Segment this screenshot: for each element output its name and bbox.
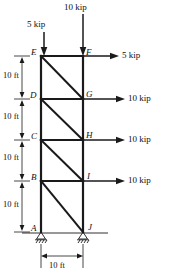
- truss-members: [41, 56, 83, 232]
- dim-label-BA: 10 ft: [3, 200, 19, 209]
- supports: [22, 232, 108, 243]
- horizontal-loads: [84, 53, 125, 185]
- node-label-E: E: [31, 48, 37, 57]
- node-label-B: B: [31, 173, 37, 182]
- member-D-H: [41, 99, 83, 140]
- node-label-H: H: [86, 131, 93, 140]
- load-label-E-5kip: 5 kip: [27, 20, 45, 29]
- member-B-J: [41, 181, 83, 232]
- dim-arrow-CB: [20, 141, 25, 180]
- dim-arrow-BA: [20, 182, 25, 231]
- node-label-G: G: [86, 90, 93, 99]
- load-label-F-10kip: 10 kip: [64, 3, 87, 12]
- load-arrow-I-h-10kip: [84, 178, 125, 185]
- node-label-A: A: [31, 224, 37, 233]
- support-J-pin-icon: [77, 232, 89, 243]
- load-label-G-h-10kip: 10 kip: [128, 94, 151, 103]
- load-arrow-E-5kip: [41, 32, 48, 56]
- node-label-D: D: [30, 91, 37, 100]
- node-label-C: C: [31, 132, 37, 141]
- dim-label-span: 10 ft: [49, 261, 65, 270]
- dim-label-DC: 10 ft: [3, 112, 19, 121]
- node-label-I: I: [87, 172, 90, 181]
- support-A-pin-icon: [35, 232, 47, 243]
- load-label-I-h-10kip: 10 kip: [128, 176, 151, 185]
- member-E-G: [41, 56, 83, 99]
- dim-label-ED: 10 ft: [3, 71, 19, 80]
- vertical-loads: [41, 14, 87, 56]
- dim-label-CB: 10 ft: [3, 153, 19, 162]
- load-label-H-h-10kip: 10 kip: [128, 135, 151, 144]
- node-label-J: J: [88, 223, 92, 232]
- dim-arrow-DC: [20, 100, 25, 139]
- load-label-F-h-5kip: 5 kip: [122, 51, 140, 60]
- dim-arrow-ED: [20, 57, 25, 98]
- member-C-I: [41, 140, 83, 181]
- node-label-F: F: [86, 48, 92, 57]
